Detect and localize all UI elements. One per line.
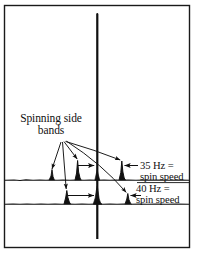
upper-spin-speed-caption: spin speed — [140, 171, 183, 182]
upper-spin-speed-label: 35 Hz = spin speed — [140, 160, 183, 182]
spinning-sidebands-caption-line1: Spinning side — [20, 112, 82, 124]
sideband-leader-lines — [52, 141, 126, 192]
upper-spin-speed-value: 35 Hz = — [140, 160, 174, 171]
nmr-spinning-sideband-figure: Spinning side bands 35 Hz = spin speed 4… — [0, 0, 198, 255]
lower-spin-speed-label: 40 Hz = spin speed — [136, 183, 179, 205]
spinning-sidebands-caption-line2: bands — [8, 124, 94, 136]
spinning-sidebands-caption: Spinning side bands — [8, 112, 94, 136]
central-isotropic-peak — [93, 13, 102, 239]
lower-spin-speed-value: 40 Hz = — [136, 183, 170, 194]
lower-spin-speed-caption: spin speed — [136, 194, 179, 205]
